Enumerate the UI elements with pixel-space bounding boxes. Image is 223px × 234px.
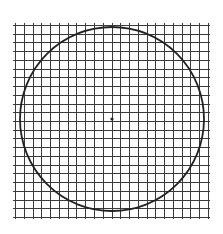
grid [13,23,210,219]
center-point [110,117,113,120]
grid-circle-diagram [0,0,223,234]
